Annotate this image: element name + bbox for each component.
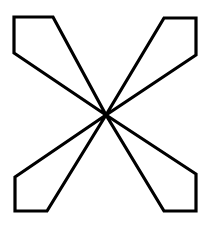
figure-canvas	[0, 0, 211, 229]
four-winged-x-figure	[0, 0, 211, 229]
